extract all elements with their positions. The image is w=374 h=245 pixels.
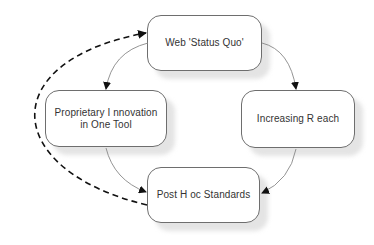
node-label: Increasing R each (257, 113, 339, 125)
node-label-line-1: Proprietary I nnovation (55, 107, 158, 119)
node-increasing-reach: Increasing R each (241, 90, 355, 148)
node-label: Post H oc Standards (157, 189, 251, 201)
cycle-diagram: Web 'Status Quo' Proprietary I nnovation… (0, 0, 374, 245)
edge-status-quo-to-proprietary (106, 43, 148, 89)
node-label-line-2: in One Tool (80, 119, 132, 131)
node-proprietary-innovation: Proprietary I nnovation in One Tool (45, 90, 167, 147)
node-post-hoc-standards: Post H oc Standards (147, 167, 260, 223)
node-label: Web 'Status Quo' (165, 37, 244, 49)
node-web-status-quo: Web 'Status Quo' (147, 15, 262, 71)
